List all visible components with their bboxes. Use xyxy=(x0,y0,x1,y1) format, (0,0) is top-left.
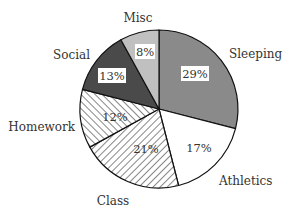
category-label-athletics: Athletics xyxy=(218,174,272,188)
category-label-social: Social xyxy=(53,48,90,62)
category-label-sleeping: Sleeping xyxy=(229,47,283,61)
pct-label-misc: 8% xyxy=(136,45,154,59)
pct-label-sleeping: 29% xyxy=(182,67,208,81)
pie-chart: 29% 17% 21% 12% 13% 8% Sleeping Athletic… xyxy=(0,0,292,217)
pct-label-social: 13% xyxy=(99,69,125,83)
category-label-misc: Misc xyxy=(123,11,152,25)
pie-chart-svg: 29% 17% 21% 12% 13% 8% Sleeping Athletic… xyxy=(0,0,292,217)
pct-label-athletics: 17% xyxy=(186,141,212,155)
pct-label-homework: 12% xyxy=(102,110,128,124)
category-label-homework: Homework xyxy=(8,120,75,134)
category-label-class: Class xyxy=(97,194,130,208)
pct-label-class: 21% xyxy=(133,142,159,156)
